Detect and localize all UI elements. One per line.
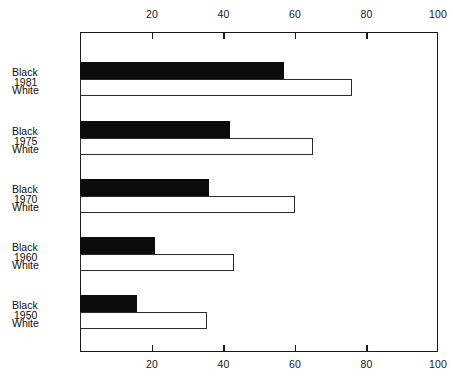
bar-1960-white: [80, 254, 234, 271]
bar-1981-black: [80, 62, 284, 79]
tick-top-3: [366, 32, 368, 39]
xtick-label-bottom-20: 20: [132, 358, 172, 370]
series-label-1970-white: White: [12, 202, 72, 213]
series-label-1950-black: Black: [12, 300, 72, 311]
series-label-1981-white: White: [12, 85, 72, 96]
tick-top-0: [152, 32, 154, 39]
bar-1970-black: [80, 179, 209, 196]
xtick-label-bottom-80: 80: [347, 358, 387, 370]
tick-bottom-2: [295, 345, 297, 352]
xtick-label-top-60: 60: [275, 8, 315, 20]
bar-1975-white: [80, 138, 313, 155]
bar-1950-black: [80, 295, 137, 312]
bar-1970-white: [80, 196, 295, 213]
tick-bottom-0: [152, 345, 154, 352]
series-label-1950-white: White: [12, 318, 72, 329]
series-label-1960-black: Black: [12, 242, 72, 253]
xtick-label-bottom-100: 100: [418, 358, 453, 370]
series-label-1981-black: Black: [12, 67, 72, 78]
tick-top-1: [223, 32, 225, 39]
tick-bottom-3: [366, 345, 368, 352]
xtick-label-bottom-60: 60: [275, 358, 315, 370]
series-label-1975-white: White: [12, 144, 72, 155]
bar-1975-black: [80, 121, 230, 138]
bar-1960-black: [80, 237, 155, 254]
bar-chart: 20 40 60 80 100 20 40 60 80 100 1981 Bla…: [0, 0, 453, 382]
xtick-label-bottom-40: 40: [204, 358, 244, 370]
xtick-label-top-80: 80: [347, 8, 387, 20]
tick-bottom-1: [223, 345, 225, 352]
xtick-label-top-40: 40: [204, 8, 244, 20]
series-label-1975-black: Black: [12, 126, 72, 137]
tick-top-2: [295, 32, 297, 39]
xtick-label-top-100: 100: [418, 8, 453, 20]
bar-1981-white: [80, 79, 352, 96]
series-label-1960-white: White: [12, 260, 72, 271]
bar-1950-white: [80, 312, 207, 329]
series-label-1970-black: Black: [12, 184, 72, 195]
xtick-label-top-20: 20: [132, 8, 172, 20]
